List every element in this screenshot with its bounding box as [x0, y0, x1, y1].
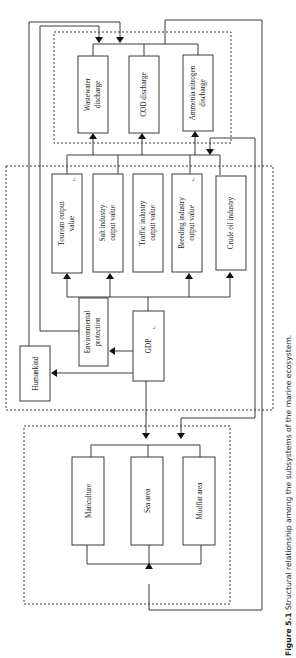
resources-top-bus — [91, 445, 200, 457]
resources-bottom-bus — [87, 545, 201, 564]
figure-caption-text: Structural relationship among the subsys… — [284, 335, 293, 610]
svg-text:Ammonia nitrogen: Ammonia nitrogen — [189, 65, 197, 120]
node-humankind: Humankind — [20, 346, 50, 401]
svg-text:value: value — [68, 216, 76, 232]
arrow-down-icon — [116, 37, 124, 43]
arrow-down-icon — [142, 433, 150, 439]
arrow-up-icon — [89, 133, 97, 139]
svg-text:┘: ┘ — [191, 177, 196, 183]
svg-text:COD discharge: COD discharge — [140, 72, 148, 116]
node-cod-discharge: COD discharge — [129, 56, 159, 133]
gdp-industry-bus — [67, 277, 230, 297]
figure-caption: Figure 5.1 Structural relationship among… — [284, 335, 293, 656]
svg-text:output value: output value — [149, 205, 157, 241]
svg-text:Salt industry: Salt industry — [99, 204, 107, 241]
node-salt-industry-output-value: Salt industry output value — [93, 174, 123, 272]
svg-text:┘: ┘ — [72, 177, 77, 183]
svg-text:Mudflat area: Mudflat area — [196, 482, 204, 520]
arrow-left-icon — [51, 369, 57, 377]
node-tourism-output-value: Tourism output value ┘ — [52, 174, 82, 273]
arrow-up-icon — [106, 273, 114, 279]
node-mudflat-area: Mudflat area — [183, 457, 215, 545]
arrow-up-icon — [138, 133, 146, 139]
svg-text:discharge: discharge — [94, 81, 102, 108]
figure-number: Figure 5.1 — [284, 612, 293, 656]
svg-text:Mariculture: Mariculture — [85, 484, 93, 518]
svg-text:Humankind: Humankind — [32, 356, 40, 390]
svg-text:discharge: discharge — [199, 79, 207, 106]
svg-text:output value: output value — [188, 205, 196, 241]
svg-text:Tourism output: Tourism output — [58, 201, 66, 245]
node-mariculture: Mariculture — [72, 457, 104, 545]
svg-text:Crude oil industry: Crude oil industry — [227, 196, 235, 249]
node-gdp: GDP ┘ — [133, 311, 164, 381]
svg-text:Breeding industry: Breeding industry — [178, 197, 186, 249]
arrow-up-icon — [226, 272, 234, 278]
svg-text:Sea area: Sea area — [144, 488, 152, 513]
pollution-top-bus — [93, 44, 198, 56]
economy-top-bus — [67, 155, 220, 175]
svg-text:protection: protection — [94, 317, 102, 347]
marine-ecosystem-diagram: Wastewater discharge COD discharge Ammon… — [0, 0, 296, 658]
arrow-down-icon — [95, 37, 103, 43]
arrow-down-icon — [177, 433, 185, 439]
svg-text:Environmental: Environmental — [84, 311, 92, 354]
node-ammonia-nitrogen-discharge: Ammonia nitrogen discharge — [183, 55, 213, 131]
arrow-up-icon — [63, 273, 71, 279]
arrow-left-icon — [109, 347, 115, 355]
node-environmental-protection: Environmental protection — [79, 298, 108, 366]
svg-text:Traffic industry: Traffic industry — [139, 200, 147, 245]
arrow-up-icon — [191, 131, 199, 137]
arrow-down-icon — [206, 149, 214, 155]
node-wastewater-discharge: Wastewater discharge — [78, 56, 108, 133]
svg-text:┘: ┘ — [152, 325, 157, 331]
node-traffic-industry-output-value: Traffic industry output value — [133, 174, 163, 272]
svg-text:GDP: GDP — [145, 339, 153, 353]
node-sea-area: Sea area — [131, 457, 163, 545]
svg-text:output value: output value — [109, 205, 117, 241]
node-breeding-industry-output-value: Breeding industry output value ┘ — [172, 174, 202, 272]
node-crude-oil-industry: Crude oil industry — [216, 176, 246, 270]
svg-text:Wastewater: Wastewater — [84, 77, 92, 111]
arrow-up-icon — [185, 273, 193, 279]
